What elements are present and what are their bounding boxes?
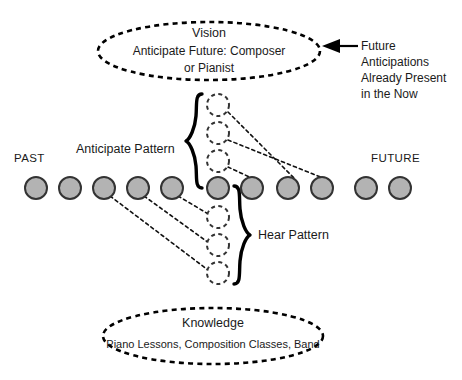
- hearing-connector-3: [178, 196, 210, 215]
- anticipated-node[interactable]: [207, 94, 229, 116]
- timeline-nodes: [25, 177, 411, 199]
- timeline-node[interactable]: [25, 177, 47, 199]
- hear-pattern-brace: [234, 186, 250, 284]
- anticipated-node[interactable]: [207, 122, 229, 144]
- vision-line-1: Anticipate Future: Composer: [133, 44, 286, 58]
- hearing-connector-lines: [110, 196, 210, 270]
- note-line-1: Future: [361, 39, 396, 53]
- knowledge-line-1: Piano Lessons, Composition Classes, Band: [106, 338, 319, 350]
- knowledge-title: Knowledge: [182, 316, 244, 330]
- hear-pattern-label: Hear Pattern: [258, 228, 329, 242]
- timeline-node[interactable]: [277, 177, 299, 199]
- anticipation-connector-lines: [228, 112, 328, 181]
- timeline-node[interactable]: [127, 177, 149, 199]
- vision-ellipse-group: Vision Anticipate Future: Composer or Pi…: [98, 22, 320, 80]
- timeline-node[interactable]: [311, 177, 333, 199]
- future-anticipations-note: Future Anticipations Already Present in …: [361, 39, 447, 101]
- timeline-node[interactable]: [241, 177, 263, 199]
- diagram-canvas: Vision Anticipate Future: Composer or Pi…: [0, 0, 462, 380]
- timeline-node[interactable]: [389, 177, 411, 199]
- heard-node[interactable]: [207, 262, 229, 284]
- annotation-arrow-icon: [322, 39, 358, 53]
- timeline-node-now[interactable]: [207, 177, 229, 199]
- timeline-node[interactable]: [59, 177, 81, 199]
- heard-node[interactable]: [207, 206, 229, 228]
- future-label: FUTURE: [371, 152, 420, 164]
- timeline-node[interactable]: [93, 177, 115, 199]
- anticipate-pattern-label: Anticipate Pattern: [76, 142, 175, 156]
- anticipated-node[interactable]: [207, 150, 229, 172]
- past-label: PAST: [14, 152, 45, 164]
- timeline-node[interactable]: [355, 177, 377, 199]
- anticipated-nodes: [207, 94, 229, 172]
- vision-line-2: or Pianist: [184, 61, 235, 75]
- time-anticipation-diagram: Vision Anticipate Future: Composer or Pi…: [0, 0, 462, 380]
- vision-title: Vision: [192, 26, 226, 40]
- knowledge-ellipse-group: Knowledge Piano Lessons, Composition Cla…: [103, 308, 323, 364]
- timeline-node[interactable]: [161, 177, 183, 199]
- note-line-2: Anticipations: [361, 55, 429, 69]
- heard-node[interactable]: [207, 234, 229, 256]
- heard-nodes: [207, 206, 229, 284]
- note-line-4: in the Now: [361, 87, 418, 101]
- note-line-3: Already Present: [361, 71, 447, 85]
- anticipate-pattern-brace: [186, 94, 202, 188]
- hearing-connector-2: [144, 196, 209, 243]
- anticipation-connector-1: [228, 112, 294, 178]
